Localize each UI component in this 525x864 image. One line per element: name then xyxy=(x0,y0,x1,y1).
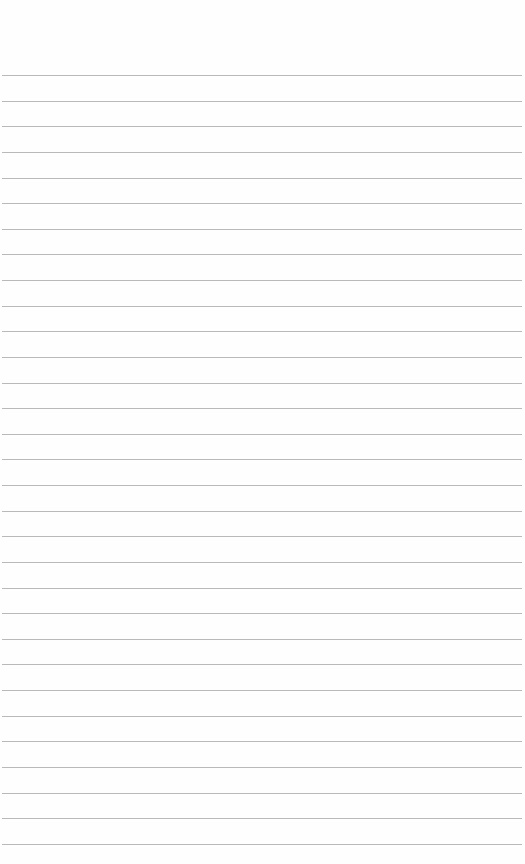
ruled-line xyxy=(2,664,522,665)
ruled-line xyxy=(2,613,522,614)
ruled-line xyxy=(2,844,522,845)
ruled-line xyxy=(2,562,522,563)
ruled-line xyxy=(2,280,522,281)
ruled-line xyxy=(2,690,522,691)
ruled-line xyxy=(2,408,522,409)
ruled-line xyxy=(2,485,522,486)
ruled-line xyxy=(2,767,522,768)
ruled-line xyxy=(2,716,522,717)
ruled-line xyxy=(2,459,522,460)
ruled-line xyxy=(2,588,522,589)
ruled-line xyxy=(2,793,522,794)
ruled-line xyxy=(2,536,522,537)
lined-paper-page xyxy=(0,0,525,864)
ruled-line xyxy=(2,152,522,153)
ruled-line xyxy=(2,331,522,332)
ruled-line xyxy=(2,383,522,384)
ruled-line xyxy=(2,229,522,230)
ruled-line xyxy=(2,306,522,307)
ruled-line xyxy=(2,126,522,127)
ruled-line xyxy=(2,511,522,512)
ruled-line xyxy=(2,357,522,358)
ruled-line xyxy=(2,203,522,204)
ruled-line xyxy=(2,741,522,742)
ruled-line xyxy=(2,101,522,102)
ruled-line xyxy=(2,75,522,76)
ruled-line xyxy=(2,254,522,255)
ruled-line xyxy=(2,178,522,179)
ruled-line xyxy=(2,818,522,819)
ruled-line xyxy=(2,434,522,435)
ruled-line xyxy=(2,639,522,640)
